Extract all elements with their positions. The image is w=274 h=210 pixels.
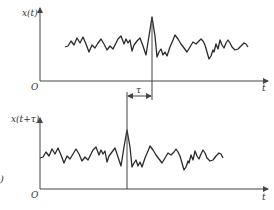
bottom-t-label: t	[262, 192, 266, 202]
bottom-y-label: x(t+τ)	[11, 114, 40, 124]
bottom-panel: x(t+τ) O t	[11, 92, 268, 202]
autocorrelation-diagram: x(t) O t τ x(t+τ) O t )	[0, 0, 274, 210]
top-waveform	[65, 17, 248, 59]
top-panel: x(t) O t	[22, 8, 268, 100]
top-t-label: t	[262, 83, 266, 93]
subfigure-label-fragment: )	[0, 173, 4, 184]
top-y-label: x(t)	[22, 8, 38, 18]
bottom-waveform	[40, 130, 223, 170]
tau-label: τ	[136, 85, 142, 95]
top-origin-label: O	[31, 82, 39, 92]
tau-shift-marker: τ	[128, 85, 151, 96]
bottom-origin-label: O	[31, 190, 39, 200]
